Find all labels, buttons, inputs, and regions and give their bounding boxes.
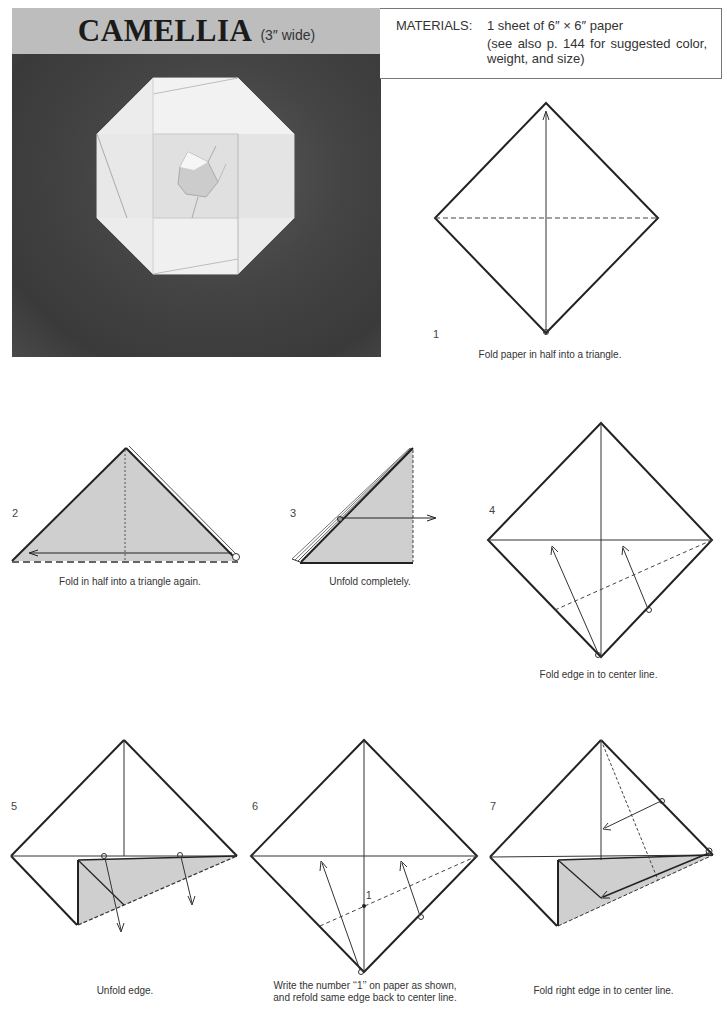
step-number: 2 bbox=[12, 507, 18, 519]
step-caption: Fold right edge in to center line. bbox=[480, 985, 727, 997]
step-caption: Unfold edge. bbox=[0, 985, 250, 997]
step-number: 6 bbox=[252, 800, 258, 812]
step-caption: Write the number ‘‘1’’ on paper as shown… bbox=[240, 980, 490, 1004]
materials-label: MATERIALS: bbox=[396, 18, 472, 33]
step-4-diagram: 4 Fold edge in to center line. bbox=[470, 410, 727, 685]
title-band: CAMELLIA (3″ wide) bbox=[12, 8, 381, 54]
step-3-diagram: 3 Unfold completely. bbox=[270, 440, 470, 590]
step-number: 3 bbox=[290, 507, 296, 519]
camellia-octagon-image bbox=[12, 54, 381, 357]
step-caption: Fold edge in to center line. bbox=[470, 669, 727, 681]
step-caption: Fold in half into a triangle again. bbox=[0, 576, 260, 588]
step-6-diagram: 1 6 Write the number ‘‘1’’ on paper as s… bbox=[240, 730, 490, 1010]
page-title: CAMELLIA bbox=[78, 13, 253, 49]
step-1-diagram: 1 Fold paper in half into a triangle. bbox=[420, 95, 680, 375]
step-2-diagram: 2 Fold in half into a triangle again. bbox=[0, 440, 260, 590]
materials-box: MATERIALS: 1 sheet of 6″ × 6″ paper (see… bbox=[380, 8, 722, 79]
number-one-marker: 1 bbox=[366, 890, 372, 901]
step-caption: Unfold completely. bbox=[270, 576, 470, 588]
page-subtitle: (3″ wide) bbox=[260, 27, 315, 43]
step-number: 1 bbox=[433, 328, 439, 340]
step-caption: Fold paper in half into a triangle. bbox=[420, 349, 680, 361]
step-caption-line-1: Write the number ‘‘1’’ on paper as shown… bbox=[240, 980, 490, 992]
step-5-diagram: 5 Unfold edge. bbox=[0, 730, 250, 1005]
materials-paper: 1 sheet of 6″ × 6″ paper bbox=[487, 18, 623, 33]
materials-note: (see also p. 144 for suggested color, we… bbox=[487, 36, 707, 66]
step-number: 7 bbox=[490, 800, 496, 812]
step-caption-line-2: and refold same edge back to center line… bbox=[240, 992, 490, 1004]
step-number: 4 bbox=[489, 504, 495, 516]
step-number: 5 bbox=[11, 800, 17, 812]
step-7-diagram: 7 Fold right edge in to center line. bbox=[480, 730, 727, 1005]
camellia-photo bbox=[12, 54, 381, 357]
